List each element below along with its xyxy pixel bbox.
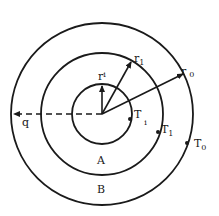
label-r-inner: ri [98,70,106,83]
radius-outer-arrow [102,74,183,114]
label-region-a: A [96,154,106,167]
diagram-canvas: ri r1 r0 Ti T1 T0 q A B [0,0,219,216]
label-t-middle: T1 [161,123,173,138]
label-r-middle: r1 [134,52,144,67]
temp-point-middle [156,130,160,134]
label-r-outer: r0 [181,65,194,79]
label-t-inner: Ti [134,108,147,127]
temp-point-outer [185,141,189,145]
temp-point-inner [128,117,132,121]
label-heat-flux: q [22,116,29,129]
concentric-cylinder-diagram: ri r1 r0 Ti T1 T0 q A B [0,0,219,216]
label-region-b: B [97,183,105,196]
label-t-outer: T0 [194,137,206,152]
